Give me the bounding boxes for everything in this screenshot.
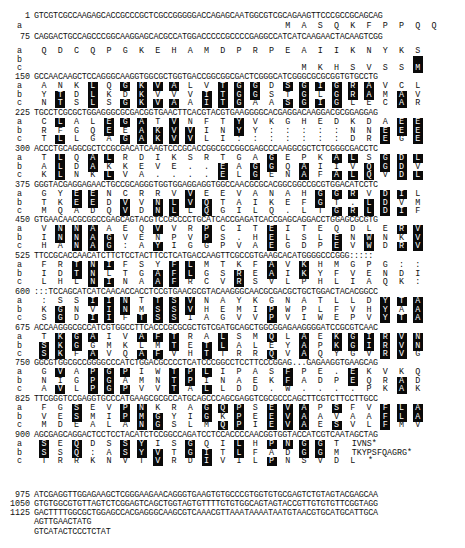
residue: D (380, 242, 390, 251)
residue: E (267, 171, 277, 180)
nucleotide-position: 750 (0, 359, 30, 368)
residue: Q (315, 350, 325, 359)
conserved-residue: N (88, 278, 98, 287)
residue: R (250, 350, 260, 359)
residue: L (185, 421, 195, 430)
residue: Q (429, 22, 439, 31)
residue: : (120, 242, 130, 251)
residue: S (315, 22, 325, 31)
residue: . (267, 385, 277, 394)
residue: P (364, 385, 374, 394)
residue: Q (267, 207, 277, 216)
conserved-residue: A (88, 242, 98, 251)
conserved-residue: Q (267, 350, 277, 359)
residue: G (218, 207, 228, 216)
residue: V (364, 314, 374, 323)
dna-line: 225TGCCTCGCGCTGGAGGGCGCGACGGTGAACTTCACGT… (0, 109, 465, 118)
residue: L (72, 278, 82, 287)
dna-line: AGTTGAACTATG (0, 518, 465, 527)
residue: V (413, 421, 423, 430)
residue: V (315, 457, 325, 466)
conserved-residue: L (413, 171, 423, 180)
residue: R (364, 135, 374, 144)
conserved-residue: G (234, 99, 244, 108)
residue: K (88, 457, 98, 466)
residue: F (413, 207, 423, 216)
residue: D (88, 207, 98, 216)
residue: I (250, 421, 260, 430)
residue: D (348, 135, 358, 144)
dna-line: GTCATACTCCCTCTAT (0, 528, 465, 537)
conserved-residue: A (397, 99, 407, 108)
residue: A (202, 314, 212, 323)
conserved-residue: P (267, 314, 277, 323)
residue: K (348, 22, 358, 31)
residue: I (169, 242, 179, 251)
residue: S (104, 99, 114, 108)
conserved-residue: A (413, 314, 423, 323)
nucleotide-position: 150 (0, 73, 30, 82)
residue: S (250, 278, 260, 287)
conserved-residue: V (153, 457, 163, 466)
residue: N (104, 457, 114, 466)
nucleotide-position: 75 (0, 33, 30, 42)
residue: M (397, 421, 407, 430)
residue: I (299, 314, 309, 323)
residue: L (250, 207, 260, 216)
residue: H (332, 64, 342, 73)
nucleotide-position: 600 (0, 288, 30, 297)
conserved-residue: L (55, 171, 65, 180)
residue: Q (104, 207, 114, 216)
residue: D (55, 421, 65, 430)
residue: A (185, 385, 195, 394)
residue: . (202, 171, 212, 180)
residue: V (218, 457, 228, 466)
conserved-residue: I (315, 99, 325, 108)
residue: M (202, 421, 212, 430)
nucleotide-position: 900 (0, 431, 30, 440)
conserved-residue: V (120, 207, 130, 216)
residue: K (39, 171, 49, 180)
conserved-residue: G (104, 385, 114, 394)
residue: D (234, 385, 244, 394)
conserved-residue: A (397, 385, 407, 394)
residue: S (380, 64, 390, 73)
sequence-label: c (17, 207, 22, 216)
conserved-residue: R (234, 278, 244, 287)
conserved-residue: A (137, 135, 147, 144)
nucleotide-position: 375 (0, 181, 30, 190)
residue: N (120, 278, 130, 287)
conserved-residue: V (55, 385, 65, 394)
residue: Y (332, 350, 342, 359)
conserved-residue: G (104, 242, 114, 251)
conserved-residue: F (380, 421, 390, 430)
sequence-label: c (17, 278, 22, 287)
residue: P (348, 314, 358, 323)
residue: V (348, 421, 358, 430)
residue: I (234, 207, 244, 216)
residue: R (234, 350, 244, 359)
residue: . (185, 171, 195, 180)
residue: . (348, 385, 358, 394)
nucleotide-position: 300 (0, 145, 30, 154)
conserved-residue: A (137, 350, 147, 359)
dna-line: 600:::TCCAGCATCATCAACACCACCTCCGTGAACGCGT… (0, 288, 465, 297)
conserved-residue: K (153, 135, 163, 144)
residue: F (315, 171, 325, 180)
conserved-residue: A (88, 350, 98, 359)
residue: S (39, 314, 49, 323)
conserved-residue: Y (380, 314, 390, 323)
nucleotide-position: 225 (0, 109, 30, 118)
conserved-residue: P (88, 385, 98, 394)
residue: V (104, 350, 114, 359)
conserved-residue: E (267, 421, 277, 430)
residue: H (185, 350, 195, 359)
residue: P (397, 22, 407, 31)
conserved-residue: L (88, 99, 98, 108)
nucleotide-position: 450 (0, 216, 30, 225)
residue: L (72, 135, 82, 144)
residue: A (120, 421, 130, 430)
residue: T (137, 457, 147, 466)
residue: . (169, 171, 179, 180)
protein-row-c: cSGDIIFTSSIAGVVPVIWEPVYTA (0, 314, 465, 323)
